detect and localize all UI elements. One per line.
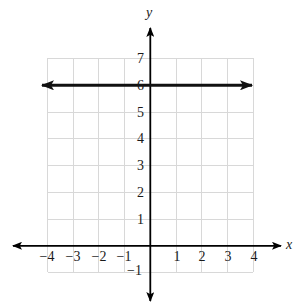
- y-axis-label: y: [146, 6, 152, 20]
- y-tick-label-2: 2: [122, 186, 144, 200]
- x-tick-label-4: 4: [243, 250, 265, 264]
- y-tick-label-4: 4: [122, 132, 144, 146]
- x-tick-label-3: 3: [217, 250, 239, 264]
- x-tick-label-neg-3: −3: [62, 250, 84, 264]
- x-tick-label-2: 2: [191, 250, 213, 264]
- x-axis-label: x: [286, 238, 292, 252]
- x-tick-label-neg-2: −2: [88, 250, 110, 264]
- y-tick-label-3: 3: [122, 159, 144, 173]
- x-tick-label-neg-1: −1: [113, 250, 135, 264]
- x-tick-label-1: 1: [166, 250, 188, 264]
- y-tick-label-1: 1: [122, 213, 144, 227]
- graph-figure: 7 6 5 4 3 2 1 −1 −4 −3 −2 −1 1 2 3 4 y x: [0, 0, 301, 306]
- y-tick-label-5: 5: [122, 106, 144, 120]
- y-tick-label-6: 6: [122, 79, 144, 93]
- x-tick-label-neg-4: −4: [36, 250, 58, 264]
- y-tick-label-neg-1: −1: [120, 264, 142, 278]
- y-tick-label-7: 7: [122, 52, 144, 66]
